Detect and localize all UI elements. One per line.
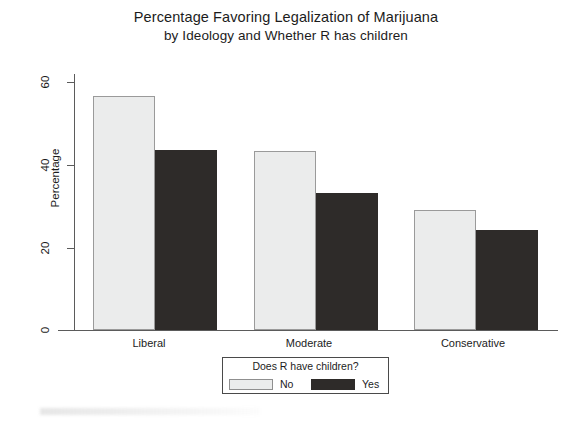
legend: Does R have children? No Yes xyxy=(222,357,389,394)
y-axis-label: Percentage xyxy=(49,118,61,238)
legend-entry-yes[interactable]: Yes xyxy=(311,377,379,391)
bars-layer xyxy=(75,74,556,330)
legend-label-no: No xyxy=(280,378,293,390)
y-axis-tick-label-0: 0 xyxy=(39,319,51,341)
bar-liberal-no xyxy=(93,96,155,330)
bar-moderate-yes xyxy=(316,193,378,330)
y-axis-tick-20 xyxy=(67,248,75,249)
x-axis-category-moderate: Moderate xyxy=(248,337,370,349)
legend-label-yes: Yes xyxy=(362,378,379,390)
chart-figure: Percentage Favoring Legalization of Mari… xyxy=(0,0,572,429)
scan-artifact xyxy=(40,408,260,415)
legend-swatch-no xyxy=(229,379,273,390)
bar-moderate-no xyxy=(254,151,316,330)
page-title: Percentage Favoring Legalization of Mari… xyxy=(0,8,572,27)
legend-entry-no[interactable]: No xyxy=(229,377,293,391)
y-axis-tick-40 xyxy=(67,165,75,166)
y-axis-tick-label-60: 60 xyxy=(39,71,51,93)
bar-liberal-yes xyxy=(155,150,217,330)
legend-title: Does R have children? xyxy=(223,360,388,372)
x-axis-category-conservative: Conservative xyxy=(408,337,538,349)
chart-title-block: Percentage Favoring Legalization of Mari… xyxy=(0,8,572,45)
y-axis-tick-label-20: 20 xyxy=(39,237,51,259)
y-axis-tick-60 xyxy=(67,82,75,83)
legend-entries: No Yes xyxy=(223,377,388,393)
legend-swatch-yes xyxy=(311,379,355,390)
x-axis-line xyxy=(58,330,558,331)
bar-conservative-yes xyxy=(476,230,538,330)
bar-conservative-no xyxy=(414,210,476,330)
x-axis-category-liberal: Liberal xyxy=(88,337,210,349)
chart-subtitle: by Ideology and Whether R has children xyxy=(0,27,572,45)
y-axis-tick-0 xyxy=(67,330,75,331)
